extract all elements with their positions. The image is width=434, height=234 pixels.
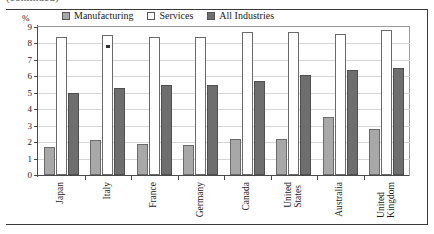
x-axis-group-separator (178, 175, 179, 180)
bar-group (323, 27, 358, 175)
x-axis-group-separator (224, 175, 225, 180)
bar-group (230, 27, 265, 175)
caption-remnant: (continued) (6, 0, 59, 3)
bar-all-industries (254, 81, 265, 175)
x-axis-category-label-line: Japan (56, 182, 66, 204)
figure-container: (continued) % ManufacturingServicesAll I… (0, 0, 434, 234)
y-axis-tick (34, 76, 38, 77)
bar-all-industries (161, 85, 172, 175)
x-axis-category-label-line: Canada (242, 182, 252, 211)
legend-entry: Manufacturing (62, 11, 133, 21)
y-axis-tick-label: 0 (28, 171, 33, 180)
bar-services (102, 35, 113, 175)
bar-services (335, 34, 346, 175)
x-axis-group-separator (131, 175, 132, 180)
legend-swatch-icon (147, 12, 155, 20)
x-axis-group-separator (85, 175, 86, 180)
bar-manufacturing (44, 147, 55, 175)
x-axis-group-separator (271, 175, 272, 180)
bar-manufacturing (90, 140, 101, 175)
bar-all-industries (207, 85, 218, 175)
bar-group (276, 27, 311, 175)
y-axis-tick (34, 27, 38, 28)
bar-all-industries (68, 93, 79, 175)
bar-all-industries (300, 75, 311, 175)
y-axis-tick (34, 126, 38, 127)
x-axis-category-label: UnitedKingdom (377, 182, 396, 218)
rule-top (6, 9, 428, 10)
bar-group (90, 27, 125, 175)
bar-group (137, 27, 172, 175)
bar-manufacturing (369, 129, 380, 175)
legend-swatch-icon (207, 12, 215, 20)
bar-services (242, 32, 253, 175)
y-axis-tick (34, 43, 38, 44)
rule-bottom (6, 224, 428, 225)
bar-group (183, 27, 218, 175)
x-axis-category-label-line: Australia (335, 182, 345, 217)
bar-manufacturing (276, 139, 287, 175)
bar-services (149, 37, 160, 175)
y-axis-tick-label: 3 (28, 121, 33, 130)
x-axis-category-label: Germany (196, 182, 206, 217)
x-axis-category-label: UnitedStates (284, 182, 303, 208)
bar-services (56, 37, 67, 175)
bar-services (288, 32, 299, 175)
y-axis-tick-label: 4 (28, 105, 33, 114)
y-axis-tick (34, 175, 38, 176)
bar-manufacturing (230, 139, 241, 175)
y-axis-tick-label: 6 (28, 72, 33, 81)
y-axis-tick (34, 93, 38, 94)
legend-swatch-icon (62, 12, 70, 20)
footnote-marker-icon (106, 45, 110, 48)
bar-manufacturing (183, 145, 194, 175)
x-axis-category-label-line: States (293, 182, 303, 208)
plot-area: 0123456789 (38, 27, 410, 175)
bar-all-industries (347, 70, 358, 175)
x-axis-category-label: Canada (242, 182, 252, 211)
y-axis-tick-label: 9 (28, 23, 33, 32)
y-axis-tick-label: 7 (28, 55, 33, 64)
bar-services (195, 37, 206, 175)
y-axis-tick-label: 5 (28, 88, 33, 97)
y-axis-tick-label: 8 (28, 39, 33, 48)
bar-manufacturing (323, 117, 334, 175)
y-axis-tick-label: 1 (28, 154, 33, 163)
bar-services (381, 30, 392, 175)
x-axis-category-label: France (149, 182, 159, 208)
y-axis-tick (34, 60, 38, 61)
legend-label: Services (159, 11, 193, 21)
x-axis-group-separator (364, 175, 365, 180)
x-axis-category-label-line: Italy (103, 182, 113, 199)
bar-all-industries (114, 88, 125, 175)
y-axis-tick (34, 109, 38, 110)
bar-manufacturing (137, 144, 148, 175)
x-axis-category-label: Japan (56, 182, 66, 204)
legend-entry: Services (147, 11, 193, 21)
legend-label: Manufacturing (74, 11, 133, 21)
bar-all-industries (393, 68, 404, 175)
legend-entry: All Industries (207, 11, 274, 21)
x-axis-category-label-line: Kingdom (386, 182, 396, 218)
x-axis-category-label-line: Germany (196, 182, 206, 217)
x-axis-category-label-line: France (149, 182, 159, 208)
bar-group (369, 27, 404, 175)
y-axis-tick (34, 159, 38, 160)
legend-label: All Industries (219, 11, 274, 21)
x-axis-group-separator (317, 175, 318, 180)
chart-legend: ManufacturingServicesAll Industries (62, 11, 274, 21)
y-axis-tick-label: 2 (28, 138, 33, 147)
x-axis-category-label: Australia (335, 182, 345, 217)
y-axis-tick (34, 142, 38, 143)
bar-group (44, 27, 79, 175)
rule-right (427, 9, 428, 225)
x-axis-category-label: Italy (103, 182, 113, 199)
